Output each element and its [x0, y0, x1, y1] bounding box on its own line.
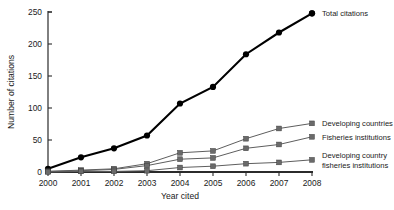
- x-tick-label: 2002: [105, 178, 124, 188]
- series-1: [45, 10, 315, 172]
- legend-label: Total citations: [322, 9, 368, 18]
- legend-label: Developing countries: [322, 119, 393, 128]
- data-point: [277, 142, 282, 147]
- data-point: [178, 150, 183, 155]
- citations-line-chart: 050100150200250 Number of citations 2000…: [0, 0, 394, 210]
- data-point: [145, 168, 150, 173]
- x-axis-title: Year cited: [161, 191, 199, 201]
- x-tick-label: 2003: [138, 178, 157, 188]
- y-tick-label: 50: [33, 135, 43, 145]
- x-tick-label: 2007: [270, 178, 289, 188]
- data-point: [243, 51, 249, 57]
- data-point: [178, 165, 183, 170]
- x-tick-label: 2005: [204, 178, 223, 188]
- x-axis: 200020012002200320042005200620072008 Yea…: [39, 172, 322, 201]
- data-point: [177, 100, 183, 106]
- data-point: [112, 169, 117, 174]
- y-tick-label: 150: [28, 71, 42, 81]
- y-tick-label: 250: [28, 7, 42, 17]
- chart-canvas: 050100150200250 Number of citations 2000…: [0, 0, 394, 210]
- x-tick-label: 2008: [303, 178, 322, 188]
- data-point: [211, 164, 216, 169]
- data-point: [79, 169, 84, 174]
- data-point: [211, 148, 216, 153]
- data-point: [310, 121, 315, 126]
- x-tick-label-group: 200020012002200320042005200620072008: [39, 178, 322, 188]
- data-point: [78, 154, 84, 160]
- data-point: [244, 146, 249, 151]
- data-point: [310, 134, 315, 139]
- series-layer: [45, 10, 315, 174]
- legend-item-3: Fisheries institutions: [322, 133, 391, 142]
- data-point: [145, 163, 150, 168]
- y-tick-label: 0: [37, 167, 42, 177]
- data-point: [211, 156, 216, 161]
- data-point: [277, 160, 282, 165]
- x-tick-label: 2006: [237, 178, 256, 188]
- legend-label: Developing country: [322, 151, 387, 160]
- x-tick-label: 2004: [171, 178, 190, 188]
- y-tick-label: 200: [28, 39, 42, 49]
- series-line: [48, 123, 312, 171]
- data-point: [46, 170, 51, 175]
- data-point: [111, 145, 117, 151]
- data-point: [144, 132, 150, 138]
- data-point: [178, 157, 183, 162]
- legend-label-line2: fisheries institutions: [322, 161, 388, 170]
- y-axis: 050100150200250 Number of citations: [6, 7, 52, 177]
- y-axis-title: Number of citations: [6, 55, 16, 129]
- x-tick-label: 2001: [72, 178, 91, 188]
- legend-item-1: Total citations: [309, 9, 368, 18]
- chart-legend: Total citationsDeveloping countriesFishe…: [309, 9, 393, 170]
- y-tick-label-group: 050100150200250: [28, 7, 42, 177]
- data-point: [244, 161, 249, 166]
- x-tick-label: 2000: [39, 178, 58, 188]
- legend-label: Fisheries institutions: [322, 133, 391, 142]
- data-point: [276, 29, 282, 35]
- data-point: [210, 84, 216, 90]
- data-point: [310, 157, 315, 162]
- data-point: [244, 136, 249, 141]
- legend-marker: [309, 10, 315, 16]
- y-tick-label: 100: [28, 103, 42, 113]
- data-point: [277, 126, 282, 131]
- legend-item-4: Developing countryfisheries institutions: [322, 151, 388, 170]
- legend-item-2: Developing countries: [322, 119, 393, 128]
